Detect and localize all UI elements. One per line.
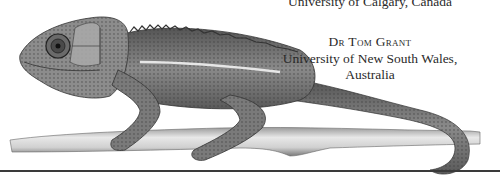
author-name: Dr Tom Grant	[240, 34, 500, 50]
affiliation-unsw-line2: Australia	[240, 67, 500, 83]
horizontal-rule	[0, 170, 500, 172]
affiliation-unsw-line1: University of New South Wales,	[240, 51, 500, 67]
affiliation-calgary: University of Calgary, Canada	[240, 0, 500, 10]
chameleon-illustration	[0, 0, 500, 183]
